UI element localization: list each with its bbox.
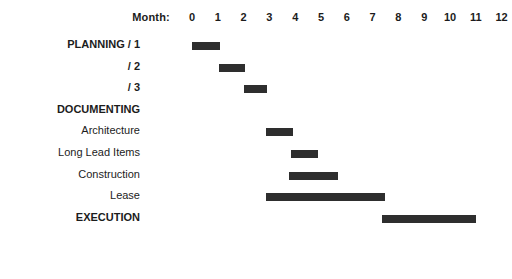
month-tick-0: 0 [180,11,204,23]
task-bar[interactable] [382,215,476,223]
month-tick-11: 11 [464,11,488,23]
task-label: Lease [110,189,140,201]
task-row-container: PLANNING / 1/ 2/ 3DOCUMENTINGArchitectur… [0,34,512,228]
task-row: Lease [0,185,512,207]
task-bar[interactable] [219,64,245,72]
month-tick-3: 3 [257,11,281,23]
task-row: EXECUTION [0,207,512,229]
month-tick-9: 9 [412,11,436,23]
month-tick-1: 1 [206,11,230,23]
task-label: PLANNING / 1 [67,38,140,50]
task-bar[interactable] [291,150,318,158]
task-label: Long Lead Items [58,146,140,158]
task-row: PLANNING / 1 [0,34,512,56]
month-tick-12: 12 [490,11,512,23]
month-tick-2: 2 [232,11,256,23]
month-tick-10: 10 [438,11,462,23]
month-tick-4: 4 [283,11,307,23]
month-tick-7: 7 [361,11,385,23]
task-label: / 3 [128,81,140,93]
task-row: / 3 [0,77,512,99]
task-row: Architecture [0,120,512,142]
month-axis-label: Month: [132,11,170,23]
task-row: Construction [0,164,512,186]
month-tick-8: 8 [386,11,410,23]
task-label: DOCUMENTING [57,103,140,115]
task-bar[interactable] [289,172,338,180]
month-tick-5: 5 [309,11,333,23]
task-label: / 2 [128,60,140,72]
task-row: DOCUMENTING [0,99,512,121]
task-label: Architecture [81,124,140,136]
task-row: Long Lead Items [0,142,512,164]
task-bar[interactable] [266,193,386,201]
task-bar[interactable] [192,42,220,50]
gantt-chart: Month: 0123456789101112 PLANNING / 1/ 2/… [0,0,512,279]
task-row: / 2 [0,56,512,78]
task-bar[interactable] [266,128,293,136]
month-axis: Month: 0123456789101112 [0,0,512,34]
month-tick-6: 6 [335,11,359,23]
task-bar[interactable] [244,85,267,93]
task-label: EXECUTION [76,211,140,223]
task-label: Construction [78,168,140,180]
